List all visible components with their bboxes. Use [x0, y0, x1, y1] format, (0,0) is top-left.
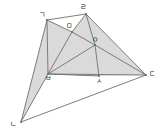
vertex-label-g: ㄱ	[39, 11, 45, 18]
vertex-dot-o	[94, 44, 96, 46]
vertex-label-o: ㅇ	[92, 36, 98, 43]
vertex-dot-g	[46, 19, 48, 21]
geometry-figure: ㄱㄹㅁㅇㅂㅅㄷㄴ	[0, 0, 164, 136]
geometry-canvas	[0, 0, 164, 136]
vertex-dot-r	[85, 13, 87, 15]
vertex-label-d: ㄷ	[149, 70, 155, 77]
vertex-dot-d	[145, 74, 147, 76]
edge-g-r	[47, 14, 86, 20]
vertex-label-s: ㅅ	[96, 77, 102, 84]
shaded-regions-group	[21, 14, 146, 122]
vertex-label-b: ㅂ	[45, 74, 51, 81]
vertex-dot-m	[71, 31, 73, 33]
vertex-dot-n	[20, 121, 22, 123]
vertex-label-r: ㄹ	[80, 3, 86, 10]
vertex-label-n: ㄴ	[10, 120, 16, 127]
vertex-label-m: ㅁ	[66, 22, 72, 29]
